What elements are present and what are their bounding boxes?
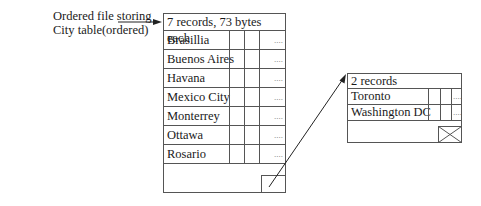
overflow-pointer-arrow-icon — [269, 74, 346, 187]
arrows-layer — [0, 0, 481, 206]
label-arrow-icon — [118, 19, 162, 25]
